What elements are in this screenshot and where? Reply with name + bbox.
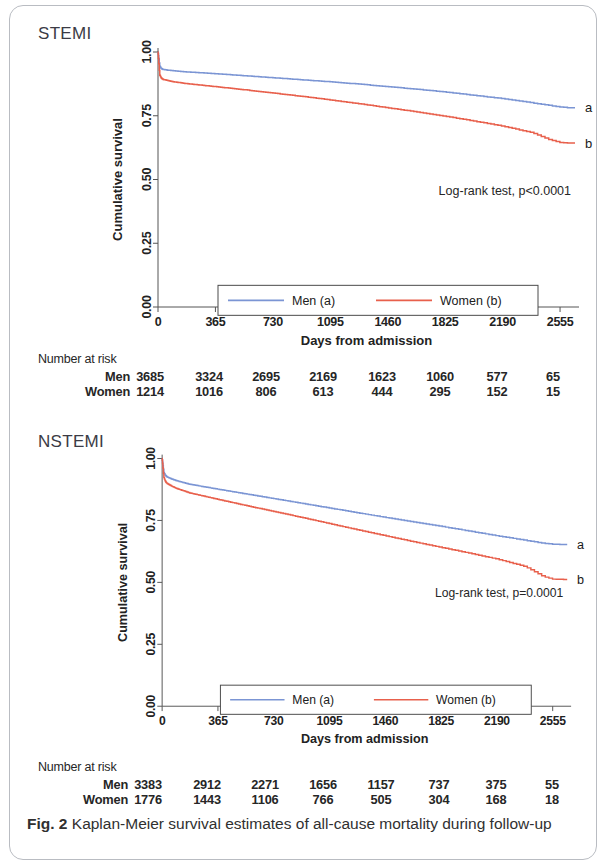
y-tick-label: 0.25 bbox=[140, 231, 154, 254]
risk-cell: 737 bbox=[429, 777, 450, 792]
y-tick-label: 0.00 bbox=[144, 694, 158, 717]
chart-panel-stemi: STEMI 0.000.250.500.751.0003657301095146… bbox=[0, 0, 605, 420]
risk-cell: 766 bbox=[313, 792, 334, 807]
risk-cell: 3383 bbox=[134, 777, 162, 792]
risk-cell: 18 bbox=[545, 792, 559, 807]
x-tick-label: 2190 bbox=[489, 315, 516, 329]
risk-cell: 295 bbox=[430, 384, 451, 399]
risk-cell: 1106 bbox=[252, 792, 279, 807]
risk-cell: 65 bbox=[546, 369, 560, 384]
risk-cell: 152 bbox=[487, 384, 508, 399]
y-tick-label: 0.75 bbox=[140, 104, 154, 127]
risk-cell: 806 bbox=[256, 384, 277, 399]
y-tick-label: 0.25 bbox=[144, 633, 158, 656]
risk-cell: 168 bbox=[486, 792, 507, 807]
risk-cell: 15 bbox=[546, 384, 560, 399]
y-tick-label: 0.50 bbox=[144, 571, 158, 594]
risk-cell: 55 bbox=[545, 777, 559, 792]
legend-label-women: Women (b) bbox=[440, 294, 502, 308]
curve-label-b: b bbox=[585, 136, 592, 151]
x-tick-label: 365 bbox=[208, 714, 228, 728]
risk-cell: 3685 bbox=[136, 369, 164, 384]
risk-cell: 304 bbox=[429, 792, 450, 807]
risk-heading: Number at risk bbox=[38, 760, 116, 774]
risk-row-women: Women 1776 1443 1106 766 505 304 168 18 bbox=[0, 792, 605, 807]
plot-area-nstemi: 0.000.250.500.751.0003657301095146018252… bbox=[0, 408, 605, 748]
survival-curve-women bbox=[158, 52, 575, 143]
x-tick-label: 2555 bbox=[547, 315, 574, 329]
chart-panel-nstemi: NSTEMI 0.000.250.500.751.000365730109514… bbox=[0, 425, 605, 825]
x-tick-label: 1095 bbox=[317, 315, 344, 329]
figure-caption: Fig. 2 Kaplan-Meier survival estimates o… bbox=[27, 813, 572, 834]
risk-row-label: Women bbox=[38, 792, 128, 807]
risk-row-women: Women 1214 1016 806 613 444 295 152 15 bbox=[0, 384, 605, 399]
risk-cell: 613 bbox=[313, 384, 334, 399]
legend-label-men: Men (a) bbox=[292, 693, 334, 707]
risk-heading: Number at risk bbox=[38, 352, 116, 366]
risk-cell: 3324 bbox=[195, 369, 223, 384]
y-tick-label: 0.75 bbox=[144, 509, 158, 532]
risk-row-label: Men bbox=[48, 777, 128, 792]
risk-cell: 505 bbox=[371, 792, 392, 807]
x-tick-label: 1460 bbox=[372, 714, 398, 728]
curve-label-a: a bbox=[577, 538, 585, 552]
risk-cell: 1443 bbox=[193, 792, 221, 807]
y-axis-title: Cumulative survival bbox=[110, 118, 125, 241]
y-tick-label: 1.00 bbox=[140, 40, 154, 63]
risk-row-men: Men 3383 2912 2271 1656 1157 737 375 55 bbox=[0, 777, 605, 792]
curve-label-b: b bbox=[577, 573, 584, 587]
risk-cell: 1776 bbox=[134, 792, 162, 807]
x-tick-label: 2190 bbox=[484, 714, 510, 728]
x-axis-title: Days from admission bbox=[301, 333, 433, 348]
risk-cell: 2695 bbox=[252, 369, 280, 384]
logrank-annotation: Log-rank test, p=0.0001 bbox=[435, 586, 564, 600]
risk-cell: 1214 bbox=[136, 384, 164, 399]
caption-text: Kaplan-Meier survival estimates of all-c… bbox=[67, 815, 551, 832]
plot-area-stemi: 0.000.250.500.751.0003657301095146018252… bbox=[0, 0, 605, 350]
risk-cell: 2271 bbox=[251, 777, 279, 792]
y-tick-label: 1.00 bbox=[144, 447, 158, 470]
x-tick-label: 1460 bbox=[374, 315, 401, 329]
x-axis-title: Days from admission bbox=[301, 732, 429, 746]
risk-cell: 1623 bbox=[368, 369, 396, 384]
y-axis-title: Cumulative survival bbox=[116, 523, 130, 642]
y-tick-label: 0.50 bbox=[140, 168, 154, 191]
x-tick-label: 1095 bbox=[317, 714, 343, 728]
risk-row-label: Women bbox=[40, 384, 130, 399]
risk-cell: 1060 bbox=[426, 369, 454, 384]
legend-label-men: Men (a) bbox=[292, 294, 335, 308]
x-tick-label: 0 bbox=[159, 714, 166, 728]
x-tick-label: 730 bbox=[264, 714, 284, 728]
risk-cell: 1656 bbox=[309, 777, 337, 792]
risk-cell: 444 bbox=[372, 384, 393, 399]
risk-row-men: Men 3685 3324 2695 2169 1623 1060 577 65 bbox=[0, 369, 605, 384]
risk-cell: 1157 bbox=[368, 777, 395, 792]
risk-row-label: Men bbox=[50, 369, 130, 384]
legend-label-women: Women (b) bbox=[436, 693, 496, 707]
risk-cell: 577 bbox=[487, 369, 508, 384]
x-tick-label: 0 bbox=[155, 315, 162, 329]
x-tick-label: 1825 bbox=[432, 315, 459, 329]
risk-cell: 375 bbox=[486, 777, 507, 792]
risk-cell: 1016 bbox=[195, 384, 223, 399]
y-tick-label: 0.00 bbox=[140, 295, 154, 318]
survival-curve-men bbox=[158, 52, 575, 108]
caption-label: Fig. 2 bbox=[27, 815, 67, 832]
x-tick-label: 730 bbox=[263, 315, 283, 329]
risk-cell: 2912 bbox=[193, 777, 221, 792]
x-tick-label: 2555 bbox=[540, 714, 566, 728]
x-tick-label: 1825 bbox=[428, 714, 454, 728]
logrank-annotation: Log-rank test, p<0.0001 bbox=[439, 184, 571, 198]
survival-curve-women bbox=[162, 459, 567, 580]
x-tick-label: 365 bbox=[205, 315, 225, 329]
curve-label-a: a bbox=[585, 100, 593, 115]
risk-cell: 2169 bbox=[309, 369, 337, 384]
